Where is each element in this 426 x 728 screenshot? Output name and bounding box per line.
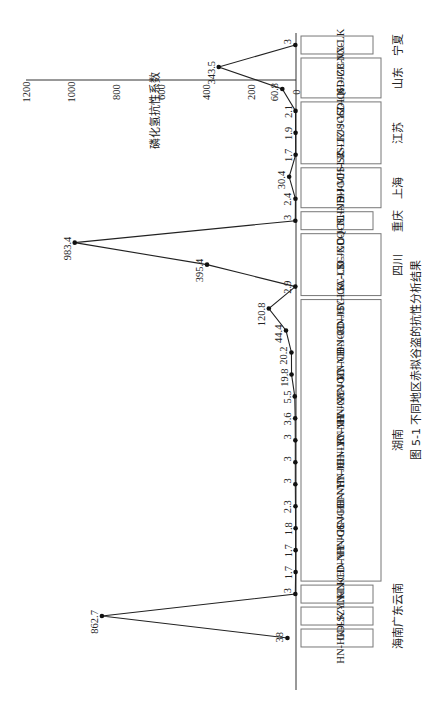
region-label: 宁夏 xyxy=(391,34,405,56)
data-point-marker xyxy=(100,614,105,619)
data-point-marker xyxy=(293,218,298,223)
data-point-marker xyxy=(280,87,285,92)
data-value-label: 30.4 xyxy=(276,170,287,189)
data-value-label: 44.4 xyxy=(273,324,284,343)
y-tick-label: 1000 xyxy=(66,82,77,103)
region-label: 云南 xyxy=(392,583,405,605)
region-label: 重庆 xyxy=(391,210,405,232)
figure-caption: 图 5-1 不同地区赤拟谷盗的抗性分析结果 xyxy=(409,260,423,461)
data-point-marker xyxy=(267,306,272,311)
data-value-label: 3 xyxy=(282,588,293,593)
data-value-label: 19.8 xyxy=(279,368,290,386)
data-point-marker xyxy=(284,328,289,333)
region-label: 山东 xyxy=(392,67,405,89)
data-value-label: 20.2 xyxy=(278,346,289,364)
data-value-label: 3 xyxy=(282,456,293,461)
data-value-label: 3.6 xyxy=(282,412,293,425)
region-label: 四川 xyxy=(392,254,405,276)
data-point-marker xyxy=(293,416,298,421)
data-value-label: 3 xyxy=(282,39,293,44)
region-label: 海南 xyxy=(391,627,405,649)
data-point-marker xyxy=(293,526,298,531)
y-tick-label: 800 xyxy=(111,84,122,100)
data-value-label: 1.9 xyxy=(283,127,294,140)
data-point-marker xyxy=(293,153,298,158)
data-value-label: 120.8 xyxy=(256,303,267,327)
value-labels: 38862.731.71.71.82.33333.65.519.820.244.… xyxy=(62,39,294,643)
category-label: NX-LK xyxy=(335,28,346,61)
rotated-figure: 020040060080010001200 海南广东云南湖南四川重庆上海江苏山东… xyxy=(0,0,426,728)
resistance-line xyxy=(75,45,296,638)
category-label-boxes: 海南广东云南湖南四川重庆上海江苏山东宁夏HN-HK-LKGD-SZ-LKYN-L… xyxy=(301,28,405,663)
y-tick-label: 1200 xyxy=(21,82,32,103)
y-tick-label: 200 xyxy=(246,84,257,100)
data-point-marker xyxy=(216,65,221,70)
region-label: 广东 xyxy=(392,605,405,627)
region-label: 上海 xyxy=(391,177,405,199)
data-point-marker xyxy=(293,131,298,136)
data-point-marker xyxy=(293,284,298,289)
data-value-label: 2.9 xyxy=(282,281,293,294)
data-series xyxy=(72,43,297,641)
data-value-label: 60.8 xyxy=(269,83,280,101)
data-value-label: 1.8 xyxy=(283,522,294,535)
data-point-marker xyxy=(293,548,298,553)
data-point-marker xyxy=(205,262,210,267)
data-value-label: 395.4 xyxy=(194,258,205,282)
data-value-label: 862.7 xyxy=(89,610,100,634)
data-point-marker xyxy=(285,636,290,641)
data-point-marker xyxy=(293,43,298,48)
data-point-marker xyxy=(293,109,298,114)
data-value-label: 1.7 xyxy=(283,544,294,557)
region-label: 江苏 xyxy=(392,122,405,144)
data-value-label: 2.1 xyxy=(283,105,294,118)
data-point-marker xyxy=(289,372,294,377)
resistance-line-chart: 020040060080010001200 海南广东云南湖南四川重庆上海江苏山东… xyxy=(0,0,426,728)
data-value-label: 1.7 xyxy=(283,566,294,579)
data-point-marker xyxy=(72,240,77,245)
data-value-label: 5.5 xyxy=(282,390,293,403)
data-value-label: 983.4 xyxy=(62,236,73,260)
data-point-marker xyxy=(293,482,298,487)
data-value-label: 3 xyxy=(282,215,293,220)
data-point-marker xyxy=(293,592,298,597)
data-value-label: 2.3 xyxy=(282,500,293,513)
data-point-marker xyxy=(293,570,298,575)
data-point-marker xyxy=(293,438,298,443)
y-axis-label: 磷化氢抗性系数 xyxy=(148,72,162,149)
y-tick-label: 400 xyxy=(201,84,212,100)
data-value-label: 3 xyxy=(282,478,293,483)
data-point-marker xyxy=(289,350,294,355)
y-tick-label: 0 xyxy=(291,89,302,94)
data-point-marker xyxy=(292,394,297,399)
data-point-marker xyxy=(293,196,298,201)
data-point-marker xyxy=(287,174,292,179)
data-point-marker xyxy=(293,504,298,509)
region-label: 湖南 xyxy=(392,429,405,451)
data-value-label: 2.4 xyxy=(282,192,293,206)
data-point-marker xyxy=(293,460,298,465)
data-value-label: 38 xyxy=(274,632,285,643)
data-value-label: 1.7 xyxy=(283,149,294,162)
data-value-label: 343.5 xyxy=(206,61,217,85)
data-value-label: 3 xyxy=(282,434,293,439)
